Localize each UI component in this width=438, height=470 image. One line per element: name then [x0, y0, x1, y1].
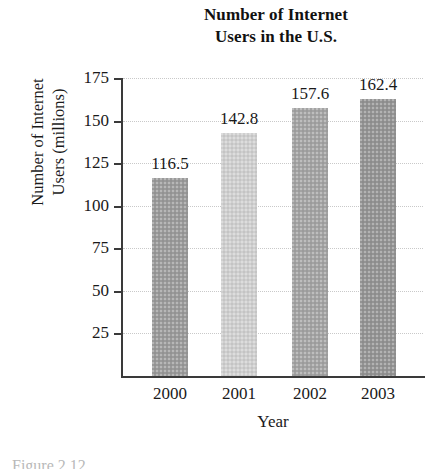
bar-value-label: 116.5	[151, 154, 189, 174]
bar-fill	[152, 178, 188, 376]
bar-2003: 162.4	[360, 99, 396, 376]
x-axis-line	[121, 376, 425, 378]
y-tick-mark	[114, 163, 123, 165]
plot-area: 255075100125150175 116.5142.8157.6162.4 …	[121, 78, 425, 378]
y-tick-label: 175	[84, 68, 110, 88]
bar-fill	[292, 108, 328, 376]
bar-2001: 142.8	[221, 133, 257, 376]
bar-2000: 116.5	[152, 178, 188, 376]
y-tick-label: 75	[92, 238, 109, 258]
y-tick-mark	[114, 121, 123, 123]
y-axis-title-line-1: Number of Internet	[27, 27, 48, 257]
y-tick-mark	[114, 78, 123, 80]
y-tick-mark	[114, 333, 123, 335]
y-tick-label: 50	[92, 281, 109, 301]
y-tick-label: 150	[84, 111, 110, 131]
bar-value-label: 142.8	[220, 109, 258, 129]
y-tick-label: 100	[84, 196, 110, 216]
y-tick-label: 25	[92, 323, 109, 343]
y-tick-label: 125	[84, 153, 110, 173]
y-axis-title: Number of Internet Users (millions)	[27, 27, 71, 257]
x-tick-label: 2002	[293, 384, 327, 404]
y-axis-title-line-2: Users (millions)	[48, 27, 69, 257]
y-tick-mark	[114, 291, 123, 293]
x-tick-label: 2000	[153, 384, 187, 404]
bar-fill	[221, 133, 257, 376]
chart-title: Number of Internet Users in the U.S.	[150, 4, 402, 48]
bar-2002: 157.6	[292, 108, 328, 376]
y-tick-mark	[114, 248, 123, 250]
bar-value-label: 162.4	[359, 75, 397, 95]
figure-caption: Figure 2.12	[12, 458, 86, 469]
chart-title-line-2: Users in the U.S.	[150, 26, 402, 48]
bar-fill	[360, 99, 396, 376]
x-axis-title: Year	[121, 412, 425, 432]
y-tick-mark	[114, 206, 123, 208]
chart-title-line-1: Number of Internet	[150, 4, 402, 26]
x-tick-label: 2003	[361, 384, 395, 404]
x-tick-label: 2001	[222, 384, 256, 404]
bar-value-label: 157.6	[291, 84, 329, 104]
chart-figure: Number of Internet Users in the U.S. Num…	[0, 0, 438, 470]
